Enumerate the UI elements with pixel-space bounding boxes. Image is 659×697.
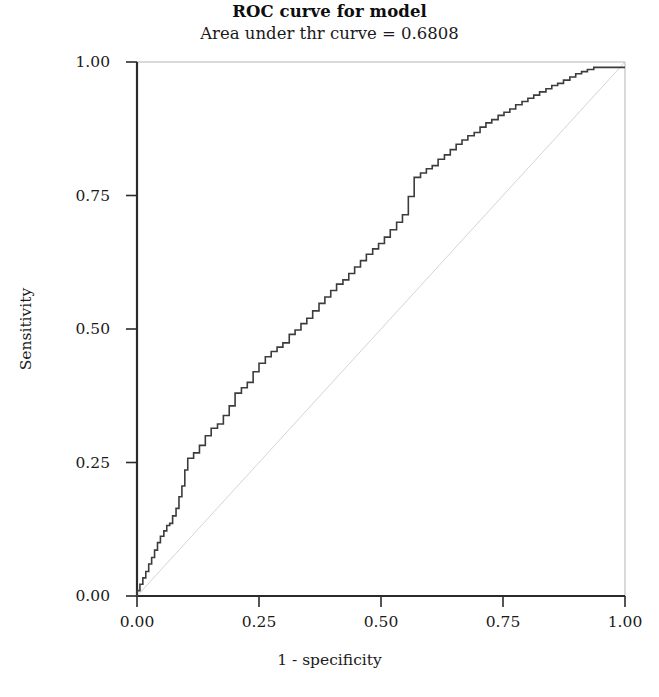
x-tick-label-4: 1.00 — [595, 614, 655, 630]
y-tick-label-3: 0.75 — [52, 188, 110, 204]
x-tick-label-3: 0.75 — [473, 614, 533, 630]
x-tick-label-1: 0.25 — [229, 614, 289, 630]
x-axis-ticks — [137, 596, 625, 607]
x-axis-label: 1 - specificity — [0, 651, 659, 669]
y-tick-label-2: 0.50 — [52, 321, 110, 337]
x-tick-label-0: 0.00 — [107, 614, 167, 630]
y-axis-label: Sensitivity — [17, 259, 35, 399]
y-tick-label-1: 0.25 — [52, 455, 110, 471]
y-tick-label-4: 1.00 — [52, 54, 110, 70]
x-tick-label-2: 0.50 — [351, 614, 411, 630]
roc-chart-figure: ROC curve for model Area under thr curve… — [0, 0, 659, 697]
y-tick-label-0: 0.00 — [52, 588, 110, 604]
y-axis-ticks — [126, 62, 137, 596]
